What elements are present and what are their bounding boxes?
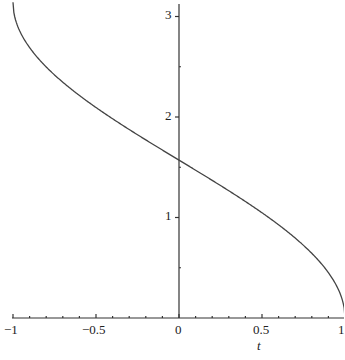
y-tick-3: 3 [165,7,172,23]
y-tick-2: 2 [165,108,172,124]
y-tick-1: 1 [165,208,172,224]
x-axis-label: t [257,338,261,354]
x-tick-neg05: −0.5 [82,322,106,338]
x-tick-1: 1 [338,322,345,338]
x-tick-0: 0 [175,322,182,338]
x-tick-neg1: −1 [4,322,18,338]
x-tick-05: 0.5 [253,322,269,338]
